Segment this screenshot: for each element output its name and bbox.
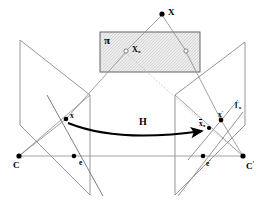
figure-canvas <box>0 0 264 213</box>
label-right-image-point-prime: ′ <box>222 109 223 116</box>
label-left-camera-centre: C <box>13 161 20 170</box>
plane-point-Xpi-dot <box>124 49 128 53</box>
label-right-epipole-prime: ′ <box>209 158 210 165</box>
label-plane-point-sub: π <box>138 49 141 54</box>
label-right-camera-centre: C′ <box>246 161 254 171</box>
left-image-plane <box>20 40 90 195</box>
label-plane-point-Xpi: Xπ <box>132 46 141 55</box>
label-scene-point: X <box>168 8 175 17</box>
label-epipolar-line: l′x <box>235 101 241 111</box>
label-right-camera-centre-prime: ′ <box>253 160 255 169</box>
label-transferred-point-sub: π <box>203 123 206 128</box>
label-plane-pi: π <box>104 35 110 46</box>
label-transferred-point: xπ <box>199 120 205 129</box>
scene-point-X-dot <box>159 11 164 16</box>
transferred-point-xbar-dot <box>207 126 211 130</box>
left-epipole-e-dot <box>72 154 77 159</box>
epipolar-homography-figure: X π Xπ x C e H xπ x′ l′x e′ C′ <box>0 0 264 213</box>
right-camera-centre-Cprime-dot <box>240 153 245 158</box>
label-transferred-point-base: x <box>199 120 203 128</box>
right-epipole-eprime-dot <box>201 154 206 159</box>
left-camera-centre-C-dot <box>16 153 21 158</box>
label-homography: H <box>139 117 147 127</box>
plane-point-right-dot <box>184 49 188 53</box>
label-left-epipole: e <box>79 159 82 167</box>
label-right-epipole: e′ <box>206 159 211 167</box>
left-image-point-x-dot <box>64 117 69 122</box>
label-epipolar-line-sub: x <box>239 105 241 110</box>
label-left-image-point: x <box>70 112 74 120</box>
label-right-image-point: x′ <box>218 110 223 118</box>
